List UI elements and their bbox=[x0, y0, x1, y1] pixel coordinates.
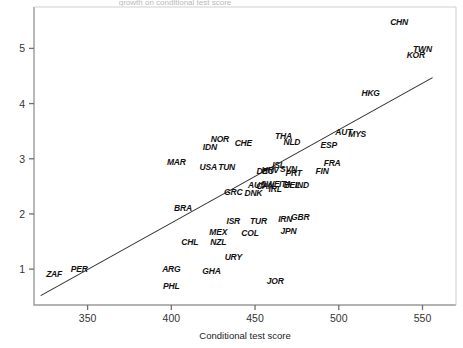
point-label-esp: ESP bbox=[321, 141, 337, 150]
point-label-prt: PRT bbox=[285, 168, 301, 177]
y-tick-label: 1 bbox=[19, 264, 25, 275]
point-label-ury: URY bbox=[225, 253, 242, 262]
point-label-tur: TUR bbox=[250, 216, 267, 225]
point-label-irn: IRN bbox=[278, 215, 292, 224]
point-label-jpn: JPN bbox=[281, 226, 297, 235]
point-label-phl: PHL bbox=[163, 281, 179, 290]
point-label-nor: NOR bbox=[211, 135, 229, 144]
point-label-gha: GHA bbox=[202, 267, 220, 276]
point-label-per: PER bbox=[71, 265, 88, 274]
y-tick-label: 2 bbox=[19, 209, 25, 220]
point-label-tha: THA bbox=[275, 131, 292, 140]
y-tick-label: 5 bbox=[19, 43, 25, 54]
plot-frame bbox=[34, 7, 456, 305]
point-label-fra: FRA bbox=[324, 159, 341, 168]
point-label-nzl: NZL bbox=[210, 237, 226, 246]
point-label-twn: TWN bbox=[413, 45, 432, 54]
point-label-mys: MYS bbox=[348, 130, 366, 139]
point-label-che: CHE bbox=[235, 139, 252, 148]
point-label-arg: ARG bbox=[162, 265, 180, 274]
plot-area-svg bbox=[0, 0, 463, 348]
y-axis-ticks bbox=[29, 48, 34, 269]
point-label-isr: ISR bbox=[226, 216, 240, 225]
point-label-ind: IND bbox=[295, 181, 309, 190]
point-label-usa: USA bbox=[199, 163, 216, 172]
x-tick-label: 450 bbox=[246, 313, 264, 324]
point-label-mex: MEX bbox=[209, 228, 227, 237]
x-tick-label: 550 bbox=[414, 313, 432, 324]
x-tick-label: 400 bbox=[163, 313, 181, 324]
scatter-chart: growth on conditional test score ZAFPERA… bbox=[0, 0, 463, 348]
point-label-gbr: GBR bbox=[291, 212, 309, 221]
point-label-col: COL bbox=[241, 228, 258, 237]
point-label-hkg: HKG bbox=[361, 88, 379, 97]
point-label-zaf: ZAF bbox=[46, 269, 62, 278]
y-tick-label: 3 bbox=[19, 154, 25, 165]
point-label-chl: CHL bbox=[181, 237, 198, 246]
y-tick-label: 4 bbox=[19, 98, 25, 109]
x-axis-title: Conditional test score bbox=[199, 331, 290, 341]
point-label-mar: MAR bbox=[167, 157, 186, 166]
point-label-bra: BRA bbox=[174, 204, 192, 213]
point-label-chn: CHN bbox=[390, 18, 408, 27]
x-axis-ticks bbox=[88, 305, 423, 310]
point-label-tun: TUN bbox=[218, 163, 235, 172]
x-tick-label: 350 bbox=[79, 313, 97, 324]
point-label-grc: GRC bbox=[224, 188, 242, 197]
point-label-jor: JOR bbox=[267, 277, 284, 286]
x-tick-label: 500 bbox=[330, 313, 348, 324]
